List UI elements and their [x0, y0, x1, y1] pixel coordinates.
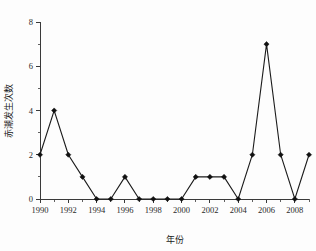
- x-tick-label: 2002: [201, 205, 218, 215]
- x-tick-label: 1994: [88, 205, 106, 215]
- data-point-marker: [306, 152, 311, 157]
- data-point-marker: [264, 42, 269, 47]
- x-tick-label: 2000: [173, 205, 190, 215]
- data-point-marker: [37, 152, 42, 157]
- x-tick-label: 2006: [258, 205, 275, 215]
- data-point-marker: [221, 174, 226, 179]
- x-tick-label: 1996: [116, 205, 133, 215]
- y-tick-label: 2: [29, 150, 33, 160]
- y-axis-title: 赤潮发生次数: [3, 84, 14, 138]
- x-tick-label: 1992: [60, 205, 77, 215]
- data-point-marker: [52, 108, 57, 113]
- x-tick-label: 2004: [230, 205, 248, 215]
- x-axis-title: 年份: [166, 234, 184, 245]
- y-tick-label: 4: [29, 106, 34, 116]
- line-chart: 0246819901992199419961998200020022004200…: [0, 0, 316, 251]
- chart-figure: 0246819901992199419961998200020022004200…: [0, 0, 316, 251]
- data-point-marker: [94, 196, 99, 201]
- x-tick-label: 2008: [286, 205, 303, 215]
- data-point-marker: [207, 174, 212, 179]
- data-point-marker: [108, 196, 113, 201]
- data-point-marker: [278, 152, 283, 157]
- x-tick-label: 1990: [32, 205, 49, 215]
- data-point-marker: [250, 152, 255, 157]
- data-point-marker: [165, 196, 170, 201]
- data-point-marker: [179, 196, 184, 201]
- y-tick-label: 0: [29, 194, 33, 204]
- data-point-marker: [137, 196, 142, 201]
- y-tick-label: 8: [29, 17, 33, 27]
- data-point-marker: [122, 174, 127, 179]
- data-point-marker: [236, 196, 241, 201]
- data-point-marker: [292, 196, 297, 201]
- series-line: [40, 44, 309, 199]
- y-tick-label: 6: [29, 61, 33, 71]
- data-point-marker: [151, 196, 156, 201]
- x-tick-label: 1998: [145, 205, 162, 215]
- data-point-marker: [193, 174, 198, 179]
